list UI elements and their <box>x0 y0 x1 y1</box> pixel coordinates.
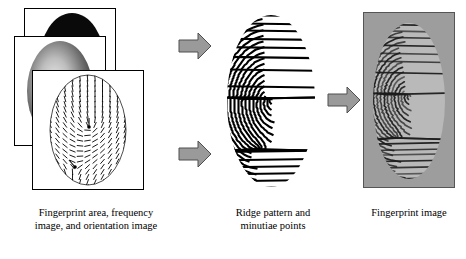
stage-1-caption: Fingerprint area, frequency image, and o… <box>8 206 184 232</box>
stage-1-panel-stack <box>14 8 174 198</box>
stage-2-caption-line-1: Ridge pattern and <box>200 206 346 219</box>
fingerprint-photo-icon <box>364 13 454 187</box>
fingerprint-image-panel <box>363 12 455 188</box>
pipeline-diagram: Fingerprint area, frequency image, and o… <box>0 0 466 259</box>
stage-3-caption-line-1: Fingerprint image <box>352 206 466 219</box>
stage-1-caption-line-1: Fingerprint area, frequency <box>8 206 184 219</box>
stage-2-caption: Ridge pattern and minutiae points <box>200 206 346 232</box>
arrow-stage1-to-stage2-bottom <box>178 140 212 168</box>
ridge-pattern-icon <box>216 12 326 190</box>
stage-3-caption: Fingerprint image <box>352 206 466 219</box>
arrow-stage2-to-stage3 <box>327 86 361 114</box>
orientation-field-icon <box>33 71 143 189</box>
orientation-image-panel <box>32 70 144 190</box>
stage-2-caption-line-2: minutiae points <box>200 219 346 232</box>
ridge-pattern-panel <box>216 12 326 190</box>
arrow-stage1-to-stage2-top <box>178 32 212 60</box>
stage-1-caption-line-2: image, and orientation image <box>8 219 184 232</box>
